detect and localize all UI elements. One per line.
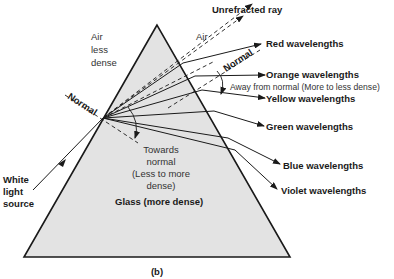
green-ray (214, 111, 264, 126)
normal-label: normal (146, 156, 175, 167)
towards-label: Towards (143, 144, 179, 155)
less-label: less (91, 44, 108, 55)
air-label: Air (91, 31, 103, 42)
dense-close-label: dense) (146, 180, 175, 191)
source-label: source (3, 198, 34, 209)
blue-wavelengths-label: Blue wavelengths (283, 160, 363, 171)
green-wavelengths-label: Green wavelengths (266, 121, 353, 132)
exit-normal-label: Normal (221, 47, 254, 74)
red-wavelengths-label: Red wavelengths (266, 38, 344, 49)
light-label: light (3, 186, 24, 197)
violet-wavelengths-label: Violet wavelengths (281, 185, 366, 196)
orange-wavelengths-label: Orange wavelengths (266, 69, 359, 80)
entry-normal-label: Normal (66, 90, 99, 117)
yellow-wavelengths-label: Yellow wavelengths (266, 93, 355, 104)
dense-label: dense (91, 57, 117, 68)
less-to-more-label: (Less to more (132, 168, 190, 179)
orange-ray (195, 75, 265, 76)
prism-dispersion-diagram: Air less dense Unrefracted ray Air Norma… (0, 0, 394, 279)
glass-prism (24, 25, 290, 257)
air-right-label: Air (196, 31, 208, 42)
white-label: White (3, 174, 29, 185)
figure-caption: (b) (151, 266, 163, 277)
glass-label: Glass (more dense) (115, 196, 203, 207)
unrefracted-ray-label: Unrefracted ray (212, 4, 283, 15)
away-from-normal-label: Away from normal (More to less dense) (230, 82, 380, 92)
